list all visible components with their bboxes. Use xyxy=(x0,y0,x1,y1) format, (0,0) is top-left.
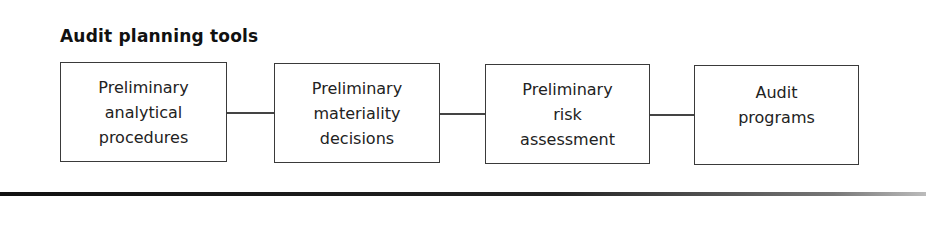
box-label-line: procedures xyxy=(98,125,188,150)
box-label-line: Preliminary xyxy=(98,75,188,100)
box-label-line: Audit xyxy=(738,80,815,105)
box-label-line: analytical xyxy=(98,100,188,125)
box-label-line: materiality xyxy=(312,101,402,126)
diagram-title: Audit planning tools xyxy=(60,26,258,46)
connector-line xyxy=(227,112,274,114)
box-label-line: assessment xyxy=(520,127,615,152)
bottom-rule xyxy=(0,192,926,196)
box-label-line: Preliminary xyxy=(520,77,615,102)
connector-line xyxy=(440,113,486,115)
box-preliminary-materiality-decisions: Preliminary materiality decisions xyxy=(274,63,440,163)
box-preliminary-analytical-procedures: Preliminary analytical procedures xyxy=(60,62,227,162)
box-label-line: decisions xyxy=(312,126,402,151)
box-label-line: programs xyxy=(738,105,815,130)
box-audit-programs: Audit programs xyxy=(694,65,859,165)
box-label-line: Preliminary xyxy=(312,76,402,101)
box-label-line: risk xyxy=(520,102,615,127)
connector-line xyxy=(650,114,695,116)
box-preliminary-risk-assessment: Preliminary risk assessment xyxy=(485,64,650,164)
